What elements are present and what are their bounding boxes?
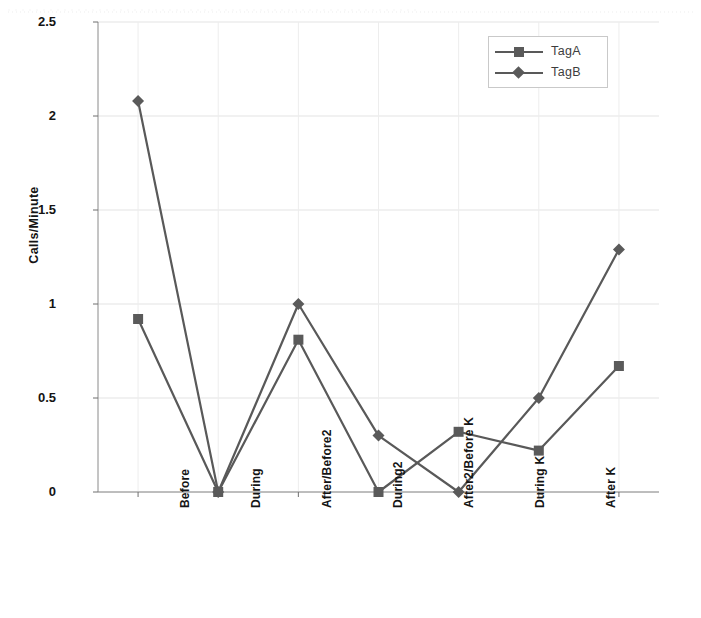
legend-label-tagb: TagB: [551, 65, 581, 79]
plot-canvas: [0, 0, 701, 618]
axes: [93, 22, 659, 497]
y-tick-label-2.5: 2.5: [10, 15, 56, 28]
diamond-marker-icon: [512, 66, 525, 79]
legend-item-tagb[interactable]: TagB: [495, 63, 603, 83]
square-marker-icon: [293, 335, 303, 345]
legend-label-taga: TagA: [551, 44, 581, 58]
x-tick-label-during: During: [249, 468, 263, 508]
chart-legend: TagA TagB: [488, 36, 608, 88]
y-tick-label-0.5: 0.5: [10, 391, 56, 404]
x-tick-label-after-k: After K: [604, 467, 618, 508]
line-chart: Calls/Minute 2.5 2 1.5 1 0.5 0 Before Du…: [0, 0, 701, 618]
x-tick-label-after2-before-k: After2/Before K: [462, 417, 476, 508]
diamond-marker-icon: [132, 95, 144, 107]
y-tick-label-1.5: 1.5: [10, 203, 56, 216]
y-axis-title: Calls/Minute: [27, 155, 41, 295]
x-tick-label-during2: During2: [391, 461, 405, 508]
x-tick-label-after-before2: After/Before2: [320, 429, 334, 508]
square-marker-icon: [534, 446, 544, 456]
square-marker-icon: [514, 47, 524, 57]
square-marker-icon: [133, 314, 143, 324]
legend-item-taga[interactable]: TagA: [495, 42, 603, 62]
square-marker-icon: [374, 487, 384, 497]
diamond-marker-icon: [613, 243, 625, 255]
square-marker-icon: [614, 361, 624, 371]
x-tick-label-during-k: During K: [533, 456, 547, 508]
gridlines: [98, 22, 659, 492]
x-tick-label-before: Before: [178, 469, 192, 508]
y-tick-label-1: 1: [10, 297, 56, 310]
y-tick-label-0: 0: [10, 485, 56, 498]
diamond-marker-icon: [292, 298, 304, 310]
y-tick-label-2: 2: [10, 109, 56, 122]
